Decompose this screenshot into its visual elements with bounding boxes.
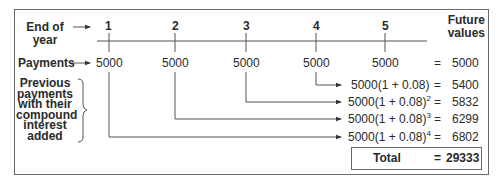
equals-sign: = — [434, 95, 441, 109]
payment-year-1: 5000 — [96, 56, 123, 70]
year-3: 3 — [243, 19, 250, 33]
compound-expression: 5000(1 + 0.08)3 — [348, 112, 431, 126]
total-label: Total — [373, 151, 401, 165]
future-value: 5400 — [452, 78, 479, 92]
end-of-year-line2: year — [20, 34, 70, 47]
end-of-year-label: End of year — [20, 21, 70, 47]
payment-year-5: 5000 — [372, 56, 399, 70]
exponent: 2 — [426, 94, 430, 103]
future-value: 6299 — [452, 112, 479, 126]
total-equals: = — [434, 151, 441, 165]
year-5: 5 — [382, 19, 389, 33]
compound-expression: 5000(1 + 0.08)2 — [348, 95, 431, 109]
year-4: 4 — [313, 19, 320, 33]
exponent: 4 — [426, 129, 430, 138]
total-value: 29333 — [446, 151, 479, 165]
year-2: 2 — [172, 19, 179, 33]
previous-line6: added — [16, 131, 74, 142]
future-value: 5832 — [452, 95, 479, 109]
compound-expression: 5000(1 + 0.08) — [351, 78, 429, 92]
exponent: 3 — [426, 111, 430, 120]
equals-sign: = — [434, 112, 441, 126]
future-value: 6802 — [452, 130, 479, 144]
previous-payments-label: Previous payments with their compound in… — [16, 78, 74, 142]
payments-label: Payments — [18, 57, 75, 70]
future-value-year-5: 5000 — [452, 56, 479, 70]
equals-sign: = — [434, 56, 441, 70]
compound-expression: 5000(1 + 0.08)4 — [348, 130, 431, 144]
payment-year-3: 5000 — [233, 56, 260, 70]
equals-sign: = — [434, 78, 441, 92]
equals-sign: = — [434, 130, 441, 144]
year-1: 1 — [105, 19, 112, 33]
payment-year-2: 5000 — [162, 56, 189, 70]
future-values-header: Future values — [440, 14, 485, 40]
payment-year-4: 5000 — [303, 56, 330, 70]
future-values-line2: values — [440, 27, 485, 40]
